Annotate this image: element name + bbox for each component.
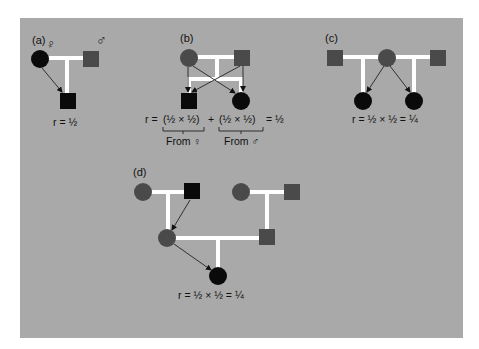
- gene-arrow: [367, 66, 384, 92]
- father2-square: [430, 50, 446, 66]
- panel-b-plus: +: [208, 113, 214, 125]
- half-sibling1-circle: [354, 92, 372, 110]
- grandchild-circle: [209, 267, 227, 285]
- panel-a: (a) ♀ ♂ r = ½: [31, 32, 107, 128]
- from-female-label: From ♀: [166, 135, 201, 147]
- grandmother-circle: [134, 183, 152, 201]
- mother-circle: [158, 229, 176, 247]
- gene-arrow: [174, 244, 211, 270]
- shared-mother-circle: [378, 49, 396, 67]
- descent-line: [265, 192, 269, 230]
- gene-arrow: [172, 200, 190, 230]
- gene-arrow: [390, 66, 410, 92]
- from-male-label: From ♂: [224, 135, 259, 147]
- descent-line: [65, 56, 69, 94]
- father-square: [234, 50, 250, 66]
- offspring-square: [60, 93, 76, 109]
- panel-b-equation-prefix: r =: [145, 113, 158, 125]
- mother-circle: [31, 50, 49, 68]
- grandfather-square: [184, 183, 200, 199]
- descent-line: [412, 57, 416, 93]
- half-sibling2-circle: [405, 92, 423, 110]
- panel-b-result: = ½: [266, 113, 284, 125]
- panel-d: (d) r = ½ × ½ = ¼: [133, 166, 300, 301]
- descent-line: [215, 57, 219, 79]
- brace-female: [163, 127, 204, 134]
- male-symbol-icon: ♂: [96, 32, 107, 48]
- panel-a-equation: r = ½: [53, 116, 77, 128]
- panel-d-equation: r = ½ × ½ = ¼: [178, 289, 244, 301]
- panel-b-label: (b): [180, 32, 193, 44]
- sibling-square: [181, 93, 197, 109]
- brace-male: [219, 127, 263, 134]
- panel-b-term2: (½ × ½): [219, 113, 255, 125]
- panel-a-label: (a): [32, 34, 45, 46]
- descent-line: [216, 238, 220, 268]
- panel-d-label: (d): [133, 166, 146, 178]
- panel-b: (b) r = (½ × ½) + (½ × ½) = ½ From ♀ Fro…: [145, 32, 284, 147]
- child-line: [239, 77, 243, 93]
- sibling-circle: [232, 92, 250, 110]
- panel-c-equation: r = ½ × ½ = ¼: [352, 113, 418, 125]
- grandmother2-circle: [232, 183, 250, 201]
- female-symbol-icon: ♀: [44, 35, 58, 52]
- father-square: [259, 229, 275, 245]
- mother-circle: [180, 49, 198, 67]
- panel-c: (c) r = ½ × ½ = ¼: [325, 32, 446, 125]
- gene-arrow: [42, 68, 62, 92]
- father1-square: [327, 50, 343, 66]
- descent-line: [166, 192, 170, 230]
- panel-b-term1: (½ × ½): [163, 113, 199, 125]
- father-square: [83, 51, 99, 67]
- panel-c-label: (c): [325, 32, 338, 44]
- relatedness-diagram: (a) ♀ ♂ r = ½ (b) r = (½ × ½) + (½ × ½) …: [0, 0, 479, 349]
- descent-line: [361, 57, 365, 93]
- grandfather2-square: [284, 184, 300, 200]
